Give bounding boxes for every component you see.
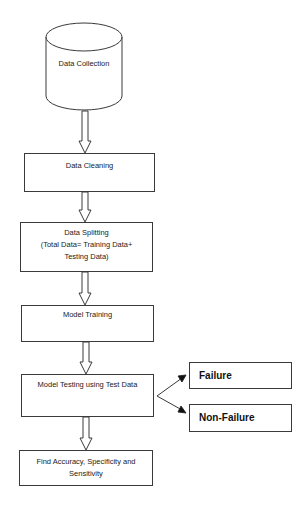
non-failure-label: Non-Failure [199,412,255,424]
find-metrics-node: Find Accuracy, Specificity and Sensitivi… [19,450,153,486]
block-arrow-testing-to-metrics [80,417,92,450]
data-splitting-label-line1: Data Splitting [64,227,109,239]
find-metrics-label-line1: Find Accuracy, Specificity and [36,456,135,468]
failure-node: Failure [189,362,292,389]
data-cleaning-label: Data Cleaning [66,160,114,172]
failure-label: Failure [199,370,232,382]
model-training-node: Model Training [21,305,154,342]
fork-arrows [157,375,186,413]
model-training-label: Model Training [63,309,112,321]
block-arrow-training-to-testing [80,342,92,374]
model-testing-node: Model Testing using Test Data [21,374,154,417]
find-metrics-label-line2: Sensitivity [69,468,103,480]
block-arrow-splitting-to-training [79,272,91,305]
model-testing-label: Model Testing using Test Data [38,379,138,391]
data-splitting-label-line3: Testing Data) [64,251,108,263]
data-cleaning-node: Data Cleaning [24,153,155,192]
data-splitting-node: Data Splitting (Total Data= Training Dat… [20,222,153,272]
block-arrow-cleaning-to-splitting [79,192,91,222]
data-splitting-label-line2: (Total Data= Training Data+ [41,239,133,251]
non-failure-node: Non-Failure [189,404,292,432]
data-collection-label: Data Collection [46,58,122,70]
block-arrow-collection-to-cleaning [79,111,91,153]
data-collection-node: Data Collection [46,23,122,111]
